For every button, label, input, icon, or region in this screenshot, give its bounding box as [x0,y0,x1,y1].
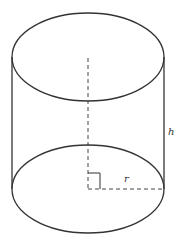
radius-label: r [124,173,130,184]
height-label: h [168,126,174,137]
cylinder-diagram: h r [0,0,184,247]
right-angle-marker [88,173,100,189]
